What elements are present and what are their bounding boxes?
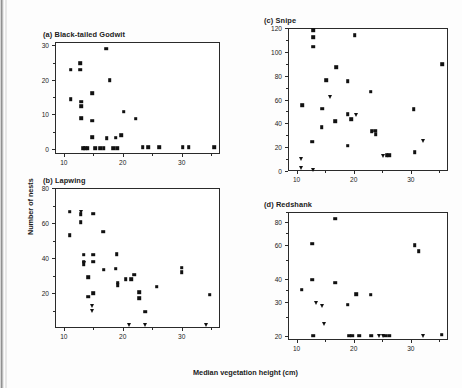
data-point — [143, 310, 147, 314]
data-point — [78, 61, 82, 65]
data-point — [91, 260, 95, 264]
data-point — [381, 334, 385, 338]
y-axis-tick — [285, 76, 288, 77]
y-axis-tick — [52, 114, 55, 115]
data-point — [90, 91, 94, 95]
data-point — [79, 210, 83, 214]
data-point — [311, 242, 315, 246]
data-point — [94, 147, 98, 151]
x-axis-tick — [297, 340, 298, 343]
x-axis-minor-tick — [211, 154, 212, 156]
x-axis-minor-tick — [382, 171, 383, 173]
y-axis-tick-label: 40 — [27, 255, 49, 262]
x-axis-minor-tick — [211, 328, 212, 330]
data-point — [369, 293, 373, 297]
y-axis-minor-tick — [53, 276, 55, 277]
x-axis-tick-label: 10 — [60, 333, 67, 340]
x-axis-tick — [182, 328, 183, 331]
data-point — [320, 107, 324, 111]
y-axis-minor-tick — [286, 111, 288, 112]
data-point — [311, 28, 315, 32]
data-points-b — [56, 189, 219, 327]
data-point — [208, 293, 212, 297]
data-point — [314, 301, 318, 305]
data-point — [116, 283, 120, 287]
data-point — [80, 100, 84, 104]
data-point — [311, 334, 315, 338]
data-point — [141, 145, 145, 149]
figure-panel-grid: Number of nests Median vegetation height… — [0, 0, 462, 388]
data-point — [333, 281, 337, 285]
data-point — [320, 304, 324, 308]
data-point — [80, 105, 84, 109]
data-point — [300, 288, 304, 292]
data-point — [299, 157, 303, 161]
y-axis-tick-label: 20 — [260, 144, 282, 151]
data-point — [357, 334, 361, 338]
data-point — [82, 253, 86, 257]
data-point — [68, 210, 72, 214]
data-point — [137, 290, 141, 294]
y-axis-tick-label: 40 — [260, 120, 282, 127]
x-axis-tick — [64, 328, 65, 331]
y-axis-minor-tick — [286, 317, 288, 318]
data-point — [146, 145, 150, 149]
x-axis-tick-label: 30 — [407, 345, 414, 352]
panel-redshank: (d) Redshank 2030406080102030 — [288, 212, 448, 340]
data-point — [353, 33, 357, 37]
y-axis-minor-tick — [286, 290, 288, 291]
x-axis-tick-label: 30 — [178, 159, 185, 166]
data-point — [124, 277, 128, 281]
panel-black-tailed-godwit: (a) Black-tailed Godwit 0102030102030 — [55, 42, 220, 154]
data-point — [333, 120, 337, 124]
data-point — [79, 220, 83, 224]
data-point — [114, 267, 118, 271]
y-axis-tick — [285, 28, 288, 29]
data-point — [157, 145, 161, 149]
y-axis-tick — [285, 245, 288, 246]
x-axis-tick — [411, 171, 412, 174]
x-axis-tick — [354, 171, 355, 174]
data-point — [346, 303, 350, 307]
y-axis-tick-label: 20 — [27, 290, 49, 297]
data-point — [346, 112, 350, 116]
data-point — [115, 252, 119, 256]
data-point — [102, 147, 106, 151]
data-point — [421, 334, 425, 338]
data-point — [187, 145, 191, 149]
y-axis-minor-tick — [53, 206, 55, 207]
data-point — [369, 334, 373, 338]
data-point — [204, 323, 208, 327]
data-point — [114, 136, 118, 140]
x-axis-tick-label: 20 — [119, 159, 126, 166]
plot-area-d — [288, 212, 448, 340]
data-point — [440, 333, 444, 337]
x-axis-tick — [297, 171, 298, 174]
data-points-c — [289, 29, 447, 170]
data-point — [91, 212, 95, 216]
data-point — [80, 116, 84, 120]
y-axis-minor-tick — [53, 97, 55, 98]
data-point — [374, 133, 378, 137]
panel-title-b: (b) Lapwing — [43, 176, 86, 185]
y-axis-tick-label: 20 — [260, 332, 282, 339]
y-axis-tick-label: 30 — [260, 299, 282, 306]
data-point — [78, 68, 82, 72]
page-scan-gutter-inner — [5, 0, 7, 388]
y-axis-minor-tick — [53, 241, 55, 242]
data-points-a — [56, 43, 219, 153]
x-axis-minor-tick — [152, 328, 153, 330]
data-point — [381, 154, 385, 158]
data-point — [115, 147, 119, 151]
x-axis-tick-label: 10 — [60, 159, 67, 166]
panel-title-d: (d) Redshank — [264, 200, 312, 209]
y-axis-tick — [52, 258, 55, 259]
data-point — [354, 113, 358, 117]
y-axis-minor-tick — [286, 260, 288, 261]
data-point — [346, 80, 350, 84]
y-axis-tick — [285, 279, 288, 280]
y-axis-tick-label: 10 — [27, 111, 49, 118]
y-axis-minor-tick — [286, 212, 288, 213]
data-point — [421, 139, 425, 143]
data-point — [311, 278, 315, 282]
